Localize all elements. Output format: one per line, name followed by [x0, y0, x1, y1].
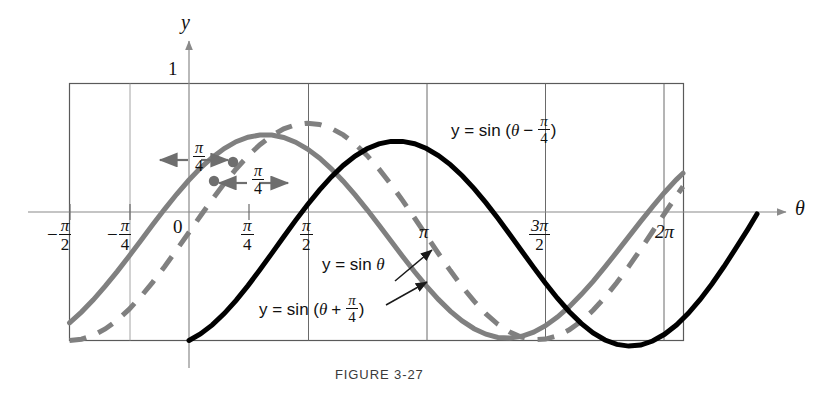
denominator: 4: [252, 180, 264, 197]
denominator: 2: [59, 235, 72, 253]
numerator: π: [241, 217, 254, 235]
denominator: 4: [193, 157, 205, 174]
x-tick-label-minus-pi-over-2: −π2: [47, 218, 72, 255]
label-operator: +: [331, 300, 341, 319]
x-tick-label-pi-over-4: π4: [240, 218, 255, 255]
shift-marker-lower-dot: [209, 176, 219, 186]
label-suffix: ): [551, 121, 557, 140]
x-tick-label-3pi-over-2: 3π2: [528, 218, 551, 255]
x-tick-label-minus-pi-over-4: −π4: [107, 218, 132, 255]
sine-curves-plot: [0, 0, 815, 408]
label-prefix: y = sin (: [259, 300, 319, 319]
y-tick-label-1: 1: [168, 59, 178, 78]
numerator: π: [300, 217, 313, 235]
denominator: 4: [119, 235, 132, 253]
label-variable: θ: [319, 300, 327, 319]
theta-axis-label: θ: [795, 198, 805, 218]
denominator: 2: [529, 235, 550, 253]
shift-annotation-lower: π4: [251, 164, 265, 199]
x-tick-label-0: 0: [173, 217, 183, 236]
label-prefix: y = sin (: [451, 121, 511, 140]
numerator: π: [193, 140, 205, 157]
figure-container: y θ 1 0 −π2 −π4 π4 π2 π 3π2 2π π4 π4 y =…: [0, 0, 815, 408]
curve-sin-theta: [70, 123, 684, 340]
numerator: π: [346, 293, 358, 309]
curve-label-sin-theta-minus-pi-over-4: y = sin (θ−π4): [451, 115, 556, 148]
label-variable: θ: [511, 121, 519, 140]
label-variable: θ: [376, 255, 384, 274]
curve-sin-theta-plus-pi-over-4: [70, 135, 684, 338]
x-tick-label-pi-over-2: π2: [299, 218, 314, 255]
label-operator: −: [523, 121, 533, 140]
denominator: 4: [538, 130, 550, 146]
curve-label-sin-theta-plus-pi-over-4: y = sin (θ+π4): [259, 294, 364, 327]
denominator: 4: [346, 309, 358, 325]
numerator: π: [119, 217, 132, 235]
label-suffix: ): [359, 300, 365, 319]
numerator: π: [252, 163, 264, 180]
numerator: 3π: [529, 217, 550, 235]
minus-sign: −: [107, 224, 118, 245]
numerator: π: [59, 217, 72, 235]
leader-arrow-sin-theta-plus: [386, 282, 427, 305]
curve-label-sin-theta: y = sin θ: [322, 256, 385, 273]
label-prefix: y = sin: [322, 255, 376, 274]
x-tick-label-2pi: 2π: [655, 222, 674, 241]
numerator: π: [538, 114, 550, 130]
x-tick-label-pi: π: [419, 222, 429, 241]
denominator: 4: [241, 235, 254, 253]
shift-annotation-upper: π4: [192, 141, 206, 176]
denominator: 2: [300, 235, 313, 253]
figure-caption: FIGURE 3-27: [335, 367, 424, 382]
y-axis-label: y: [181, 12, 190, 32]
minus-sign: −: [47, 224, 58, 245]
shift-marker-upper-dot: [228, 157, 238, 167]
